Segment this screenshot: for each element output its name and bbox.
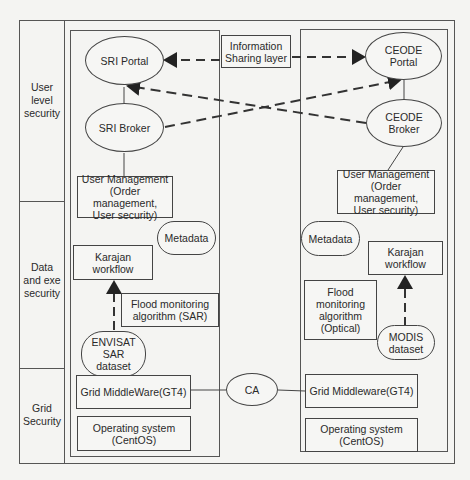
sri-grid-middleware: Grid MiddleWare(GT4) <box>76 375 191 409</box>
ceode-broker: CEODE Broker <box>366 99 442 147</box>
ceode-grid-middleware: Grid Middleware(GT4) <box>305 374 418 408</box>
ceode-flood-algorithm: Flood monitoring algorithm (Optical) <box>304 280 377 340</box>
ca-node: CA <box>226 373 278 406</box>
information-sharing-layer: Information Sharing layer <box>221 35 291 68</box>
ceode-user-management: User Management (Order management, User … <box>337 170 435 214</box>
ceode-operating-system: Operating system (CentOS) <box>305 418 418 452</box>
ceode-metadata: Metadata <box>301 221 360 256</box>
sri-karajan-workflow: Karajan workflow <box>73 245 153 280</box>
sri-operating-system: Operating system (CentOS) <box>77 416 191 451</box>
sri-metadata: Metadata <box>157 221 216 255</box>
sri-broker: SRI Broker <box>85 103 164 152</box>
sri-envisat-dataset: ENVISAT SAR dataset <box>81 331 146 377</box>
ceode-karajan-workflow: Karajan workflow <box>368 241 443 275</box>
ceode-modis-dataset: MODIS dataset <box>377 325 435 360</box>
sri-flood-algorithm: Flood monitoring algorithm (SAR) <box>121 293 219 327</box>
ceode-portal: CEODE Portal <box>365 32 442 80</box>
sri-user-management: User Management (Order management, User … <box>77 176 173 218</box>
sri-portal: SRI Portal <box>85 36 164 85</box>
